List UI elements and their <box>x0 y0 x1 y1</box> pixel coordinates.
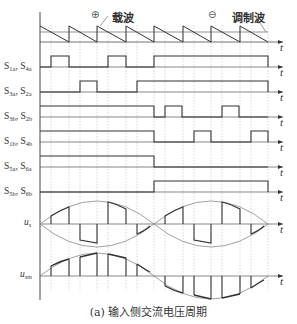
t-label-row1: t <box>280 66 283 78</box>
row-label-s5a-s6a: S5a, S6a <box>4 161 32 172</box>
t-label-carrier: t <box>280 41 283 53</box>
t-label-usm: t <box>280 275 283 287</box>
row-label-s1b-s4b: S1b, S4b <box>4 136 32 147</box>
row-axes <box>40 67 283 276</box>
figure-caption: (a) 输入侧交流电压周期 <box>0 303 297 319</box>
positive-half-symbol: ⊕ <box>91 9 99 20</box>
carrier-pointer <box>100 16 108 26</box>
row-label-s5b-s6b: S5b, S6b <box>4 186 32 197</box>
carrier-label: 载波 <box>112 9 134 25</box>
t-label-row3: t <box>280 116 283 128</box>
signal-s1b-s4b <box>40 131 268 142</box>
modulating-label: 调制波 <box>232 9 265 25</box>
signal-s1a-s4a <box>40 56 268 67</box>
row-label-s3b-s2b: S3b, S2b <box>4 111 32 122</box>
t-label-row2: t <box>280 91 283 103</box>
signal-s5a-s6a <box>40 156 268 167</box>
signal-s5b-s6b <box>40 181 268 192</box>
grid-lines <box>51 25 268 290</box>
t-label-row4: t <box>280 141 283 153</box>
us-label: us <box>24 217 31 228</box>
pwm-timing-diagram <box>0 0 297 324</box>
signal-s3b-s2b <box>40 106 268 117</box>
carrier-sawtooth <box>40 26 268 42</box>
t-label-us: t <box>280 223 283 235</box>
row-label-s3a-s2a: S3a, S2a <box>4 86 32 97</box>
negative-half-symbol: ⊖ <box>208 9 216 20</box>
t-label-row5: t <box>280 166 283 178</box>
usm-label: usm <box>20 269 32 280</box>
t-label-row6: t <box>280 191 283 203</box>
row-label-s1a-s4a: S1a, S4a <box>4 61 32 72</box>
